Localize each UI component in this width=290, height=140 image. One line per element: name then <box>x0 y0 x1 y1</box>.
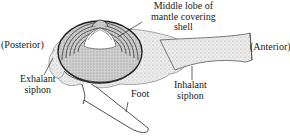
label-foot: Foot <box>131 89 149 100</box>
mussel-diagram: Middle lobe of mantle covering shell (Po… <box>0 0 290 140</box>
label-exhalant-siphon: Exhalant siphon <box>20 74 56 95</box>
label-anterior: (Anterior) <box>250 42 290 53</box>
label-middle-lobe: Middle lobe of mantle covering shell <box>151 1 216 33</box>
label-exhalant-line1: Exhalant <box>20 74 56 85</box>
label-exhalant-line2: siphon <box>20 85 56 96</box>
label-inhalant-line1: Inhalant <box>174 80 207 91</box>
label-middle-lobe-line1: Middle lobe of <box>151 1 216 12</box>
mussel-illustration <box>0 0 290 140</box>
label-inhalant-line2: siphon <box>174 91 207 102</box>
label-middle-lobe-line3: shell <box>151 22 216 33</box>
label-posterior: (Posterior) <box>1 40 44 51</box>
label-inhalant-siphon: Inhalant siphon <box>174 80 207 101</box>
leader-foot <box>126 102 128 112</box>
